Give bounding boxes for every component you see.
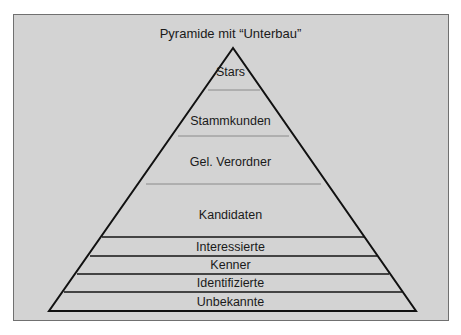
- level-label-stammkunden: Stammkunden: [0, 114, 461, 128]
- level-label-interessierte: Interessierte: [0, 240, 461, 254]
- level-label-kenner: Kenner: [0, 258, 461, 272]
- level-label-identifizierte: Identifizierte: [0, 276, 461, 290]
- level-label-gel-verordner: Gel. Verordner: [0, 155, 461, 169]
- level-label-unbekannte: Unbekannte: [0, 295, 461, 309]
- level-label-kandidaten: Kandidaten: [0, 208, 461, 222]
- level-label-stars: Stars: [0, 65, 461, 79]
